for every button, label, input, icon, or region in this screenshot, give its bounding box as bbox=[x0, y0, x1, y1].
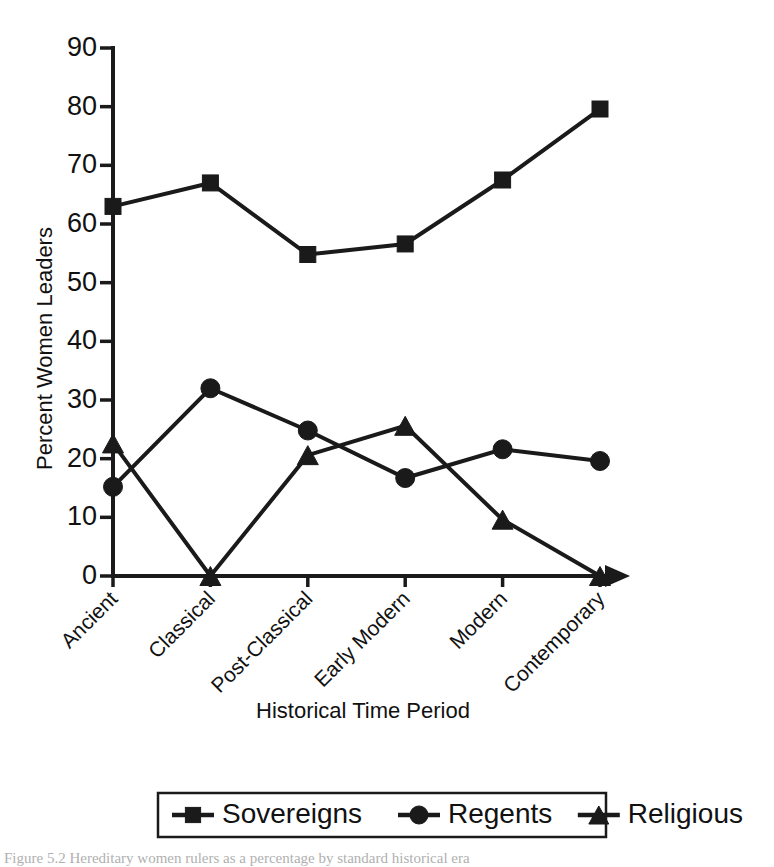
marker-square bbox=[185, 807, 200, 822]
x-axis-title: Historical Time Period bbox=[256, 698, 470, 723]
legend-label: Sovereigns bbox=[222, 798, 362, 829]
legend-label: Regents bbox=[448, 798, 552, 829]
y-tick-label: 70 bbox=[67, 149, 97, 179]
axis-lines bbox=[102, 44, 630, 587]
marker-circle bbox=[298, 421, 317, 440]
marker-square bbox=[300, 247, 316, 263]
series-line bbox=[113, 426, 600, 576]
x-category-label-text: Ancient bbox=[56, 586, 122, 652]
x-category-label: Ancient bbox=[56, 586, 122, 652]
y-tick-label: 40 bbox=[67, 325, 97, 355]
legend-items: SovereignsRegentsReligious bbox=[172, 798, 743, 829]
figure-caption: Figure 5.2 Hereditary women rulers as a … bbox=[4, 850, 470, 867]
series-regents bbox=[104, 379, 610, 497]
x-category-label: Classical bbox=[144, 587, 220, 663]
y-tick-label: 60 bbox=[67, 208, 97, 238]
marker-triangle bbox=[395, 416, 416, 435]
marker-circle bbox=[104, 477, 123, 496]
marker-circle bbox=[410, 806, 428, 824]
marker-square bbox=[202, 175, 218, 191]
marker-triangle bbox=[297, 446, 318, 465]
y-tick-label: 90 bbox=[67, 32, 97, 62]
y-axis-tick-labels: 0102030405060708090 bbox=[67, 32, 97, 590]
x-category-label: Early Modern bbox=[309, 587, 414, 692]
y-axis-title: Percent Women Leaders bbox=[32, 227, 57, 470]
marker-triangle bbox=[103, 434, 124, 453]
series-religious bbox=[103, 416, 611, 585]
x-category-label-text: Classical bbox=[144, 587, 220, 663]
series-sovereigns bbox=[105, 101, 608, 262]
x-axis-category-labels: AncientClassicalPost-ClassicalEarly Mode… bbox=[56, 586, 609, 697]
series-line bbox=[113, 388, 600, 487]
marker-circle bbox=[201, 379, 220, 398]
x-category-label-text: Contemporary bbox=[498, 586, 609, 697]
x-category-label-text: Early Modern bbox=[309, 587, 414, 692]
marker-square bbox=[397, 236, 413, 252]
y-tick-label: 50 bbox=[67, 267, 97, 297]
chart-legend: SovereignsRegentsReligious bbox=[158, 793, 743, 837]
marker-square bbox=[592, 101, 608, 117]
y-tick-label: 10 bbox=[67, 501, 97, 531]
y-tick-label: 80 bbox=[67, 91, 97, 121]
series-line bbox=[113, 109, 600, 254]
x-category-label: Post-Classical bbox=[206, 587, 316, 697]
marker-square bbox=[495, 172, 511, 188]
x-category-label-text: Post-Classical bbox=[206, 587, 316, 697]
y-tick-label: 20 bbox=[67, 443, 97, 473]
marker-circle bbox=[591, 452, 610, 471]
legend-label: Religious bbox=[628, 798, 743, 829]
marker-circle bbox=[396, 469, 415, 488]
series-layer bbox=[103, 101, 611, 585]
svg-text:Percent Women Leaders: Percent Women Leaders bbox=[32, 227, 57, 470]
y-tick-label: 30 bbox=[67, 384, 97, 414]
x-category-label: Contemporary bbox=[498, 586, 609, 697]
x-category-label: Modern bbox=[445, 587, 512, 654]
marker-square bbox=[105, 198, 121, 214]
y-tick-label: 0 bbox=[82, 560, 97, 590]
marker-circle bbox=[493, 440, 512, 459]
x-category-label-text: Modern bbox=[445, 587, 512, 654]
